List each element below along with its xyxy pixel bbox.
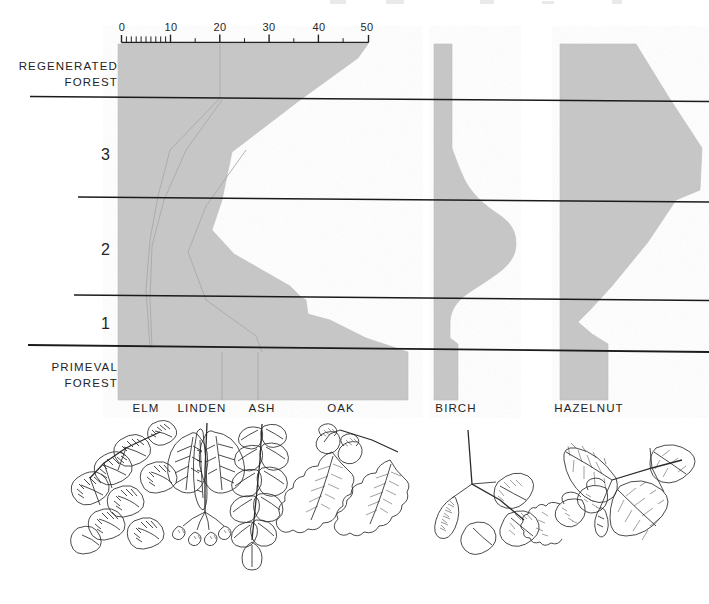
pollen-diagram-figure: 0 10 20 30 40 50 <box>0 0 709 604</box>
species-label-ash: ASH <box>249 402 276 414</box>
zone-label-regenerated-line1: REGENERATED <box>19 60 118 72</box>
species-label-hazelnut: HAZELNUT <box>554 402 624 414</box>
axis-tick-50: 50 <box>360 21 373 33</box>
axis-tick-0: 0 <box>119 21 126 33</box>
zone-label-3: 3 <box>101 146 110 163</box>
zone-label-primeval-line1: PRIMEVAL <box>51 361 118 373</box>
axis-tick-40: 40 <box>312 21 325 33</box>
zone-label-primeval-line2: FOREST <box>64 377 118 389</box>
axis-tick-10: 10 <box>164 21 177 33</box>
zone-label-1: 1 <box>101 315 110 332</box>
axis-tick-20: 20 <box>213 21 226 33</box>
species-label-birch: BIRCH <box>435 402 476 414</box>
species-label-oak: OAK <box>327 402 355 414</box>
species-label-elm: ELM <box>133 402 160 414</box>
axis-tick-30: 30 <box>262 21 275 33</box>
zone-label-regenerated-line2: FOREST <box>64 76 118 88</box>
species-label-linden: LINDEN <box>178 402 227 414</box>
diagram-svg: 0 10 20 30 40 50 <box>0 0 709 604</box>
zone-label-2: 2 <box>101 241 110 258</box>
